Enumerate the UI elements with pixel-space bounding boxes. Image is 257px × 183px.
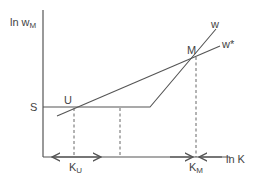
label-w: w [210, 18, 219, 30]
label-u: U [64, 94, 72, 106]
label-s: S [30, 101, 37, 113]
y-axis-label: ln wM [10, 16, 37, 30]
diagram-canvas: ln wM ln K S U M w w* KU KM [0, 0, 257, 183]
label-k-m: KM [189, 161, 203, 175]
x-axis-label: ln K [226, 153, 246, 165]
label-m: M [187, 44, 196, 56]
label-w-star: w* [221, 38, 235, 50]
label-k-u: KU [69, 161, 82, 175]
